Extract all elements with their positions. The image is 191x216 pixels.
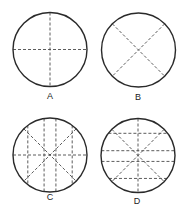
panel-d — [101, 119, 175, 193]
panel-b — [102, 13, 176, 87]
panel-label-b: B — [135, 92, 141, 102]
circle-division-diagram: A B C D — [0, 0, 191, 216]
panel-label-d: D — [134, 196, 141, 206]
panel-label-c: C — [47, 192, 54, 202]
panel-label-a: A — [47, 91, 53, 101]
panel-a — [13, 13, 87, 87]
panel-c — [13, 118, 87, 192]
